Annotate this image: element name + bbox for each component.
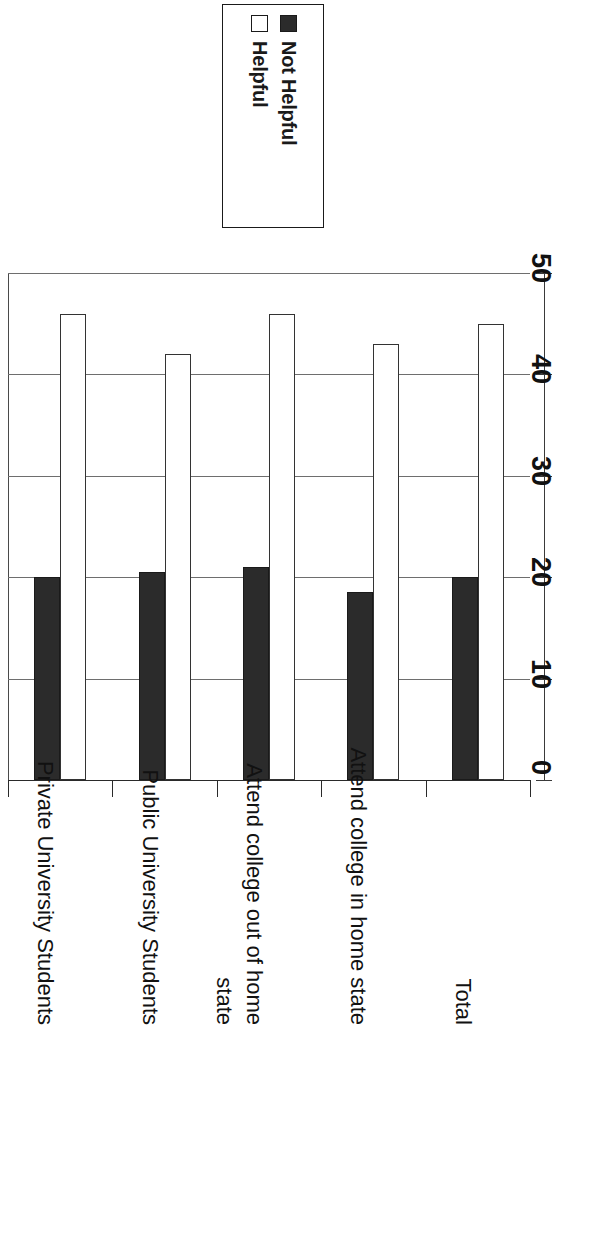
category-label: Attend college out of home state	[210, 595, 269, 1025]
bar-helpful[interactable]	[373, 344, 399, 780]
legend-entry-helpful: Helpful	[248, 15, 271, 229]
category-label: Attend college in home state	[344, 595, 374, 1025]
bar-helpful[interactable]	[60, 314, 86, 780]
legend-label-not-helpful: Not Helpful	[277, 41, 300, 145]
legend-rotated-content: Not Helpful Helpful	[223, 5, 325, 229]
filled-square-icon	[280, 15, 297, 32]
legend-label-helpful: Helpful	[248, 41, 271, 107]
category-tick	[112, 780, 113, 797]
category-label-slot: Public University Students	[112, 804, 216, 1244]
category-tick	[426, 780, 427, 797]
category-tick	[321, 780, 322, 797]
hollow-square-icon	[251, 15, 268, 32]
bar-group	[8, 273, 112, 780]
value-tick-label: 10	[525, 659, 556, 705]
bar-group	[321, 273, 425, 780]
category-label-slot: Attend college in home state	[321, 804, 425, 1244]
category-label: Private University Students	[31, 595, 61, 1025]
category-label-slot: Total	[426, 804, 530, 1244]
category-label: Public University Students	[135, 595, 165, 1025]
chart-legend: Not Helpful Helpful	[222, 4, 324, 228]
bar-helpful[interactable]	[269, 314, 295, 780]
value-axis: 01020304050	[530, 273, 594, 788]
value-tick-label: 40	[525, 354, 556, 400]
bar-helpful[interactable]	[165, 354, 191, 780]
category-label: Total	[448, 595, 478, 1025]
value-tick-label: 20	[525, 557, 556, 603]
category-tick	[8, 780, 9, 797]
category-axis-labels: Private University StudentsPublic Univer…	[8, 804, 530, 1244]
bar-helpful[interactable]	[478, 324, 504, 780]
value-tick-label: 30	[525, 456, 556, 502]
value-tick-label: 50	[525, 253, 556, 299]
category-tick	[530, 780, 531, 797]
category-label-slot: Private University Students	[8, 804, 112, 1244]
category-label-slot: Attend college out of home state	[217, 804, 321, 1244]
legend-entry-not-helpful: Not Helpful	[277, 15, 300, 229]
